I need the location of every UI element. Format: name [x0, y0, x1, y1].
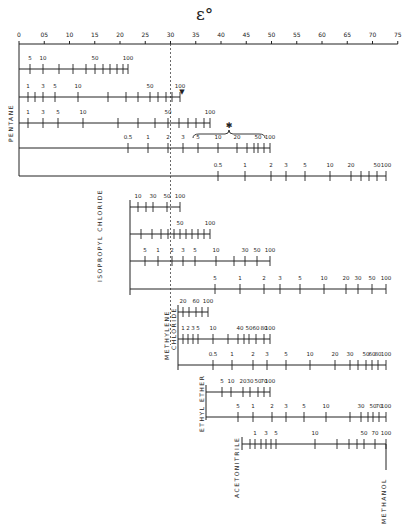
- scale-label: 50: [165, 109, 172, 115]
- solvent-label-acetonitrile: ACETONITRILE: [233, 437, 240, 498]
- scale-label: 10: [228, 378, 235, 384]
- solvent-label-methanol: METHANOL: [380, 478, 387, 524]
- scale-label: 50: [369, 275, 376, 281]
- scale-label: 3: [284, 162, 288, 168]
- scale-label: 50: [147, 83, 154, 89]
- scale-label: 20: [348, 162, 355, 168]
- scale-label: 5: [220, 378, 224, 384]
- axis-tick-label: 55: [293, 31, 301, 38]
- asterisk-icon: ✱: [226, 121, 233, 130]
- scale-label: 1: [156, 247, 160, 253]
- scale-label: 5: [274, 430, 278, 436]
- scale-label: 100: [265, 247, 276, 253]
- scale-label: 30: [150, 193, 157, 199]
- axis-tick-label: 15: [91, 31, 99, 38]
- scale-label: 10: [213, 247, 220, 253]
- axis-tick-label: 65: [343, 31, 351, 38]
- scale-label: 3: [41, 83, 45, 89]
- scale-label: 10: [40, 55, 47, 61]
- scale-label: 5: [193, 247, 197, 253]
- scale-label: 2: [270, 403, 274, 409]
- scale-label: 10: [135, 193, 142, 199]
- scale-label: 30: [247, 378, 254, 384]
- scale-label: 30: [358, 403, 365, 409]
- scale-label: 100: [123, 55, 134, 61]
- scale-label: 100: [381, 430, 392, 436]
- solvent-label-methylene-chloride-2: CHLORIDE: [170, 307, 177, 350]
- scale-label: 50: [254, 247, 261, 253]
- axis-tick-label: 45: [242, 31, 250, 38]
- scale-label: 2: [251, 351, 255, 357]
- scale-label: 70: [372, 430, 379, 436]
- scale-label: 10: [75, 83, 82, 89]
- scale-label: 2: [186, 325, 190, 331]
- scale-label: 2: [262, 275, 266, 281]
- scale-label: 50: [92, 55, 99, 61]
- scale-label: 3: [278, 275, 282, 281]
- axis-tick-label: 20: [116, 31, 124, 38]
- eluotropic-nomogram: ε° 0051015202530354045505560657075510501…: [0, 0, 405, 529]
- axis-tick-label: 75: [394, 31, 402, 38]
- scale-label: 5: [298, 275, 302, 281]
- scale-label: 60: [193, 298, 200, 304]
- scale-label: 30: [355, 275, 362, 281]
- scale-label: 5: [284, 351, 288, 357]
- scale-label: 1: [251, 403, 255, 409]
- axis-tick-label: 40: [217, 31, 225, 38]
- scale-label: 3: [181, 247, 185, 253]
- scale-label: 3: [41, 109, 45, 115]
- scale-label: 10: [327, 162, 334, 168]
- scale-label: 5: [196, 325, 200, 331]
- scale-label: 3: [284, 403, 288, 409]
- scale-label: 20: [234, 134, 241, 140]
- scale-label: 2: [269, 162, 273, 168]
- axis-tick-label: 10: [66, 31, 74, 38]
- scale-label: 10: [210, 325, 217, 331]
- scale-label: 3: [264, 430, 268, 436]
- scale-label: 5: [143, 247, 147, 253]
- solvent-label-pentane: PENTANE: [7, 104, 14, 142]
- scale-label: 100: [265, 325, 276, 331]
- scale-label: 0.5: [209, 351, 218, 357]
- axis-tick-label: 0: [17, 31, 21, 38]
- axis-tick-label: 70: [369, 31, 377, 38]
- scale-label: 3: [181, 134, 185, 140]
- scale-label: 30: [347, 351, 354, 357]
- scale-label: 100: [175, 193, 186, 199]
- solvent-label-methylene-chloride-1: METHYLENE: [163, 310, 170, 360]
- scale-label: 100: [265, 134, 276, 140]
- scale-label: 100: [381, 275, 392, 281]
- scale-label: 5: [56, 109, 60, 115]
- scale-label: 40: [237, 325, 244, 331]
- scale-label: 20: [180, 298, 187, 304]
- scale-label: 5: [236, 403, 240, 409]
- scale-label: 0.5: [214, 162, 223, 168]
- scale-label: 100: [265, 378, 276, 384]
- scale-label: 50: [361, 430, 368, 436]
- scale-label: 5: [196, 134, 200, 140]
- scale-label: 1: [230, 351, 234, 357]
- scale-label: 10: [80, 109, 87, 115]
- scale-label: 50: [255, 134, 262, 140]
- scale-label: 10: [323, 403, 330, 409]
- scale-label: 10: [215, 134, 222, 140]
- scale-label: 60: [253, 325, 260, 331]
- scale-label: 20: [332, 351, 339, 357]
- scale-label: 3: [265, 351, 269, 357]
- scale-label: 1: [253, 430, 257, 436]
- axis-tick-label: 05: [40, 31, 48, 38]
- scale-label: 10: [312, 430, 319, 436]
- scale-label: 1: [26, 109, 30, 115]
- scale-label: 0.5: [124, 134, 133, 140]
- axis-tick-label: 50: [268, 31, 276, 38]
- scale-label: 1: [26, 83, 30, 89]
- axis-tick-label: 30: [167, 31, 175, 38]
- scale-label: 10: [307, 351, 314, 357]
- scale-label: 10: [321, 275, 328, 281]
- axis-tick-label: 25: [141, 31, 149, 38]
- scale-label: 100: [381, 351, 392, 357]
- nomogram-svg: 0051015202530354045505560657075510501001…: [0, 0, 405, 529]
- scale-label: 3: [191, 325, 195, 331]
- scale-label: 2: [170, 247, 174, 253]
- scale-label: 1: [243, 162, 247, 168]
